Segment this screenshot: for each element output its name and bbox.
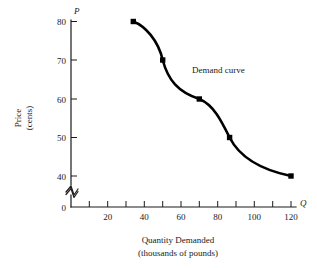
chart-canvas: 80 70 60 50 40 0 P <box>0 0 317 268</box>
x-tick-label-40: 40 <box>140 212 150 222</box>
x-tick-label-120: 120 <box>284 212 298 222</box>
x-axis-group: 20 40 60 80 100 120 Q <box>71 198 307 222</box>
y-axis-title-group: Price (cents) <box>13 106 34 131</box>
x-axis-variable-Q: Q <box>300 198 307 208</box>
y-tick-label-50: 50 <box>57 133 67 143</box>
y-tick-label-70: 70 <box>57 56 67 66</box>
y-axis-variable-P: P <box>73 6 80 16</box>
data-point-1 <box>131 19 136 24</box>
x-tick-label-60: 60 <box>177 212 187 222</box>
data-point-5 <box>288 173 293 178</box>
data-point-4 <box>227 135 232 140</box>
data-point-2 <box>160 57 165 62</box>
origin-label: 0 <box>62 203 67 213</box>
x-tick-label-20: 20 <box>103 212 113 222</box>
y-tick-label-60: 60 <box>57 95 67 105</box>
y-tick-label-80: 80 <box>57 17 67 27</box>
x-axis-title-line2: (thousands of pounds) <box>138 248 218 258</box>
demand-curve-annotation: Demand curve <box>192 65 245 75</box>
data-point-3 <box>197 96 202 101</box>
x-tick-label-80: 80 <box>213 212 223 222</box>
x-tick-label-100: 100 <box>248 212 262 222</box>
y-tick-label-40: 40 <box>57 172 67 182</box>
demand-curve-figure: 80 70 60 50 40 0 P <box>0 0 317 268</box>
x-axis-title-line1: Quantity Demanded <box>142 235 215 245</box>
demand-curve-path <box>133 22 291 177</box>
y-axis-title-line1: Price <box>13 109 23 128</box>
demand-curve-series <box>131 19 294 179</box>
x-axis-title-group: Quantity Demanded (thousands of pounds) <box>138 235 218 258</box>
y-axis-title-line2: (cents) <box>24 106 34 131</box>
y-axis-group: 80 70 60 50 40 0 P <box>57 6 80 213</box>
